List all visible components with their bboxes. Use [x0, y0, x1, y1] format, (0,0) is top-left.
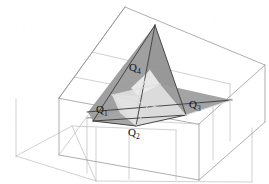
- geometry-figure-canvas: Q1 Q2 Q3 Q4: [0, 0, 269, 184]
- label-q2: Q2: [128, 126, 140, 141]
- geometry-figure: Q1 Q2 Q3 Q4: [0, 0, 269, 184]
